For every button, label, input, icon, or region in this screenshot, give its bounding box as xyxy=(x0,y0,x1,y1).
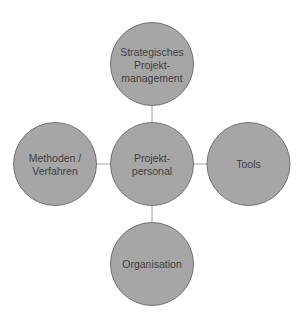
node-label-line: Tools xyxy=(236,158,261,170)
node-organisation: Organisation xyxy=(111,223,194,306)
node-tools: Tools xyxy=(207,123,290,206)
node-label-line: management xyxy=(121,72,182,84)
node-projektpersonal: Projekt- personal xyxy=(111,123,194,206)
node-label-line: Projekt- xyxy=(134,59,171,71)
hub-spoke-diagram: Strategisches Projekt- management Projek… xyxy=(0,0,304,317)
node-label-line: Verfahren xyxy=(32,165,78,177)
node-label-line: Organisation xyxy=(122,258,182,270)
node-label-line: Strategisches xyxy=(120,46,184,58)
node-label-line: Methoden / xyxy=(29,152,82,164)
node-strategisches-projektmanagement: Strategisches Projekt- management xyxy=(111,23,194,106)
node-label-line: Projekt- xyxy=(134,152,171,164)
node-methoden-verfahren: Methoden / Verfahren xyxy=(14,123,97,206)
node-label-line: personal xyxy=(132,165,172,177)
